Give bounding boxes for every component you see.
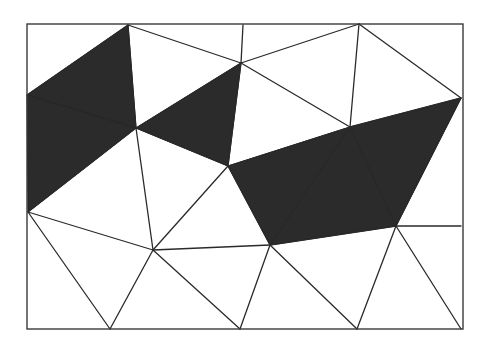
triangulation-diagram <box>0 0 489 347</box>
